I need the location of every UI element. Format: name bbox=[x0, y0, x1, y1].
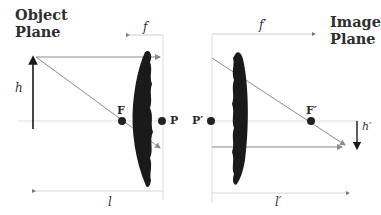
rear-principal-point-label: P′ bbox=[192, 114, 203, 127]
rear-principal-point-dot bbox=[207, 117, 215, 125]
lens-left bbox=[133, 51, 153, 187]
front-principal-point-dot bbox=[158, 117, 166, 125]
focal-length-label-left: f bbox=[143, 20, 147, 34]
rear-focal-point-label: F′ bbox=[306, 104, 317, 117]
front-focal-point-label: F bbox=[117, 104, 125, 117]
object-distance-label: l bbox=[108, 195, 112, 209]
object-plane-title-line2: Plane bbox=[15, 23, 68, 40]
object-plane-title-line1: Object bbox=[15, 6, 68, 23]
image-height-label: h′ bbox=[362, 120, 372, 133]
image-plane-title: Image Plane bbox=[330, 13, 381, 47]
image-distance-label: l′ bbox=[275, 195, 282, 209]
object-plane-title: Object Plane bbox=[15, 6, 68, 40]
image-plane-title-line1: Image bbox=[330, 13, 381, 30]
front-focal-point-dot bbox=[118, 117, 126, 125]
lens-right bbox=[232, 52, 248, 185]
ray-through-focus-right bbox=[212, 58, 345, 145]
front-principal-point-label: P bbox=[170, 114, 178, 127]
object-height-label: h bbox=[15, 81, 23, 95]
focal-length-label-right: f′ bbox=[259, 18, 266, 32]
rear-focal-point-dot bbox=[307, 117, 315, 125]
image-plane-title-line2: Plane bbox=[330, 30, 381, 47]
